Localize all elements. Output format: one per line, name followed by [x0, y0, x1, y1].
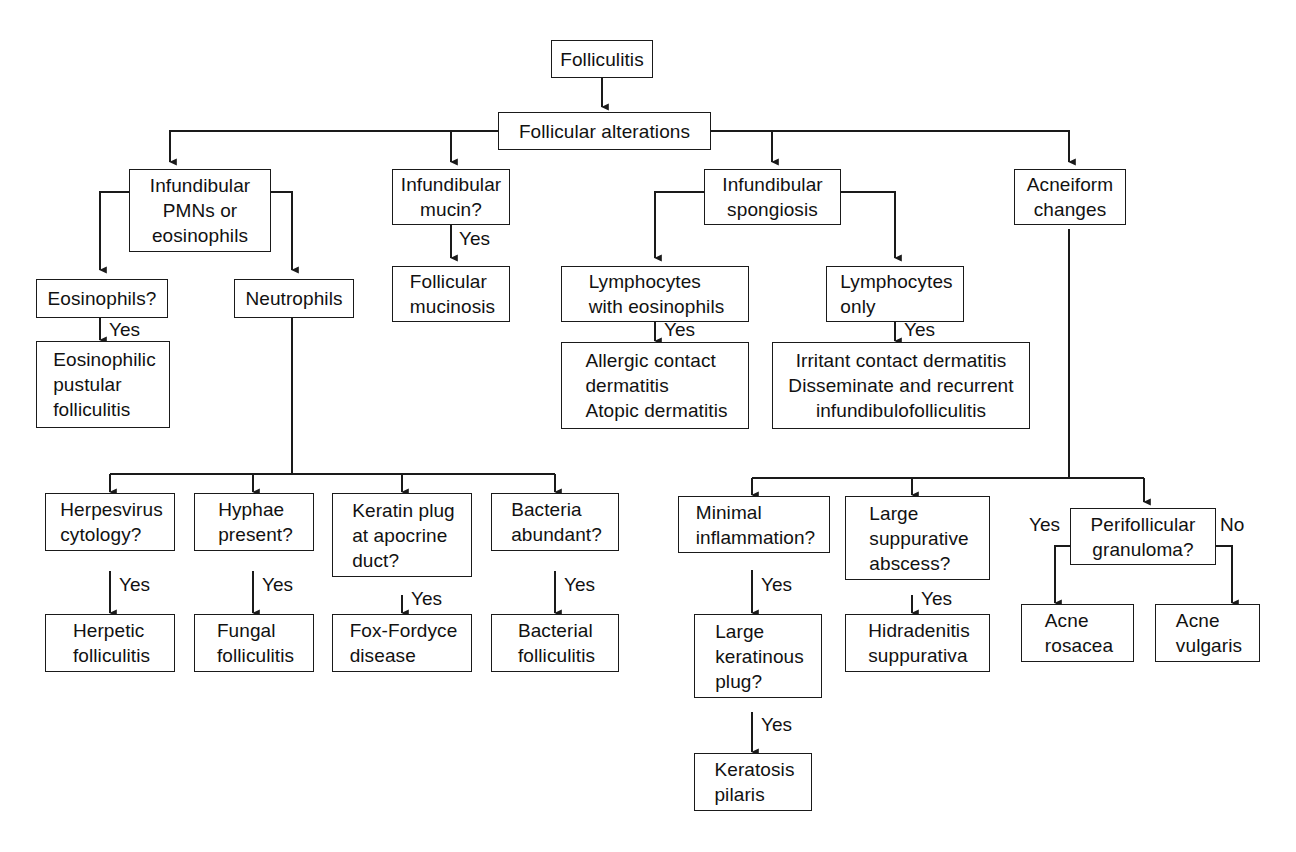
- node-fox-fordyce-disease[interactable]: Fox-Fordyce disease: [332, 614, 472, 672]
- node-label: Allergic contact dermatitis Atopic derma…: [576, 348, 733, 423]
- edge-label-minimal-yes: Yes: [761, 574, 792, 595]
- node-label: Large suppurative abscess?: [860, 501, 974, 576]
- node-label: Folliculitis: [554, 47, 650, 72]
- node-keratosis-pilaris[interactable]: Keratosis pilaris: [694, 753, 812, 811]
- node-label: Minimal inflammation?: [687, 500, 822, 550]
- node-label: Acne vulgaris: [1167, 608, 1248, 658]
- node-minimal-inflammation-question[interactable]: Minimal inflammation?: [678, 496, 830, 553]
- flowchart-canvas: Folliculitis Follicular alterations Infu…: [0, 0, 1296, 852]
- node-follicular-alterations[interactable]: Follicular alterations: [498, 112, 711, 150]
- node-perifollicular-granuloma-question[interactable]: Perifollicular granuloma?: [1070, 508, 1216, 565]
- node-lymphocytes-with-eosinophils[interactable]: Lymphocytes with eosinophils: [561, 266, 749, 322]
- node-label: Lymphocytes with eosinophils: [580, 269, 731, 319]
- node-label: Fungal folliculitis: [208, 618, 300, 668]
- node-hidradenitis-suppurativa[interactable]: Hidradenitis suppurativa: [845, 614, 990, 672]
- node-follicular-mucinosis[interactable]: Follicular mucinosis: [392, 266, 510, 322]
- node-label: Acneiform changes: [1021, 172, 1119, 222]
- node-label: Follicular mucinosis: [401, 269, 501, 319]
- edge-label-granuloma-no: No: [1220, 514, 1244, 535]
- node-acneiform-changes[interactable]: Acneiform changes: [1014, 169, 1126, 225]
- node-eosinophilic-pustular-folliculitis[interactable]: Eosinophilic pustular folliculitis: [36, 341, 170, 428]
- node-eosinophils-question[interactable]: Eosinophils?: [36, 279, 168, 318]
- node-label: Herpesvirus cytology?: [51, 497, 168, 547]
- node-hyphae-present-question[interactable]: Hyphae present?: [194, 493, 314, 551]
- edge-label-keratinous-yes: Yes: [761, 714, 792, 735]
- node-label: Infundibular PMNs or eosinophils: [144, 173, 257, 248]
- node-label: Bacteria abundant?: [502, 497, 608, 547]
- node-lymphocytes-only[interactable]: Lymphocytes only: [826, 266, 964, 322]
- node-label: Keratin plug at apocrine duct?: [343, 498, 461, 573]
- node-irritant-contact-dermatitis[interactable]: Irritant contact dermatitis Disseminate …: [772, 342, 1030, 429]
- node-allergic-contact-dermatitis[interactable]: Allergic contact dermatitis Atopic derma…: [561, 342, 749, 429]
- node-label: Fox-Fordyce disease: [341, 618, 464, 668]
- node-acne-rosacea[interactable]: Acne rosacea: [1021, 604, 1134, 662]
- node-label: Large keratinous plug?: [706, 619, 810, 694]
- edge-label-granuloma-yes: Yes: [1029, 514, 1060, 535]
- node-acne-vulgaris[interactable]: Acne vulgaris: [1155, 604, 1260, 662]
- node-large-keratinous-plug-question[interactable]: Large keratinous plug?: [694, 614, 822, 698]
- node-folliculitis[interactable]: Folliculitis: [551, 40, 653, 78]
- node-herpesvirus-cytology-question[interactable]: Herpesvirus cytology?: [45, 493, 175, 551]
- edge-label-lymph-eos-yes: Yes: [664, 319, 695, 340]
- node-infundibular-mucin[interactable]: Infundibular mucin?: [392, 169, 510, 225]
- edge-label-suppurative-yes: Yes: [921, 588, 952, 609]
- edge-label-eosinophils-yes: Yes: [109, 319, 140, 340]
- node-label: Eosinophils?: [42, 286, 163, 311]
- node-label: Keratosis pilaris: [705, 757, 800, 807]
- node-label: Neutrophils: [239, 286, 348, 311]
- node-label: Hyphae present?: [209, 497, 299, 547]
- node-infundibular-spongiosis[interactable]: Infundibular spongiosis: [704, 169, 841, 225]
- node-label: Bacterial folliculitis: [509, 618, 601, 668]
- node-label: Perifollicular granuloma?: [1085, 512, 1202, 562]
- edge-label-lymph-only-yes: Yes: [904, 319, 935, 340]
- node-bacterial-folliculitis[interactable]: Bacterial folliculitis: [491, 614, 619, 672]
- node-label: Acne rosacea: [1036, 608, 1119, 658]
- edge-label-keratin-yes: Yes: [411, 588, 442, 609]
- node-keratin-plug-question[interactable]: Keratin plug at apocrine duct?: [332, 493, 472, 577]
- edge-label-hyphae-yes: Yes: [262, 574, 293, 595]
- node-label: Infundibular mucin?: [395, 172, 508, 222]
- edge-label-mucin-yes: Yes: [459, 228, 490, 249]
- node-label: Eosinophilic pustular folliculitis: [44, 347, 162, 422]
- node-fungal-folliculitis[interactable]: Fungal folliculitis: [194, 614, 314, 672]
- edge-label-herpes-yes: Yes: [119, 574, 150, 595]
- node-label: Infundibular spongiosis: [716, 172, 829, 222]
- node-label: Hidradenitis suppurativa: [859, 618, 976, 668]
- node-bacteria-abundant-question[interactable]: Bacteria abundant?: [491, 493, 619, 551]
- node-label: Lymphocytes only: [831, 269, 958, 319]
- node-neutrophils[interactable]: Neutrophils: [234, 279, 354, 318]
- node-label: Follicular alterations: [513, 119, 696, 144]
- edge-label-bacteria-yes: Yes: [564, 574, 595, 595]
- node-label: Herpetic folliculitis: [64, 618, 156, 668]
- node-large-suppurative-abscess-question[interactable]: Large suppurative abscess?: [845, 496, 990, 580]
- node-infundibular-pmns[interactable]: Infundibular PMNs or eosinophils: [129, 169, 271, 252]
- node-label: Irritant contact dermatitis Disseminate …: [782, 348, 1019, 423]
- node-herpetic-folliculitis[interactable]: Herpetic folliculitis: [45, 614, 175, 672]
